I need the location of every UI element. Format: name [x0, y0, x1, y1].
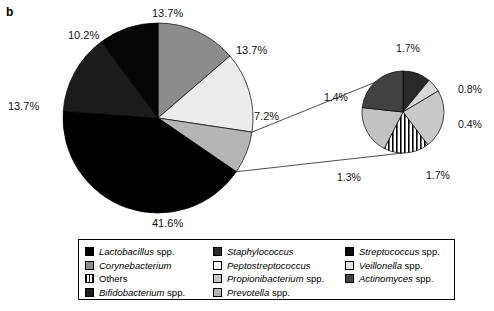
- legend-item-lactobacillus[interactable]: Lactobacillus spp.: [85, 245, 213, 259]
- legend-grid: Lactobacillus spp.StaphylococcusStreptoc…: [85, 245, 455, 299]
- legend-swatch-veillonella: [345, 261, 354, 270]
- legend-label-actinomyces: Actinomyces spp.: [359, 274, 433, 284]
- main-label-prevotella: 7.2%: [254, 111, 279, 122]
- legend-swatch-prevotella: [213, 288, 222, 297]
- legend-swatch-others: [85, 274, 94, 283]
- main-label-bifidobacterium: 13.7%: [8, 101, 39, 112]
- main-pie-slices: [63, 23, 253, 213]
- legend-label-lactobacillus: Lactobacillus spp.: [99, 247, 175, 257]
- legend-swatch-streptococcus: [345, 247, 354, 256]
- main-label-staphylococcus: 10.2%: [68, 30, 99, 41]
- legend-item-corynebacterium[interactable]: Corynebacterium: [85, 259, 213, 273]
- legend-swatch-propionibacterium: [213, 274, 222, 283]
- leader-line-bottom: [236, 153, 403, 172]
- legend-label-others: Others: [99, 274, 128, 284]
- sub-pie-slice-actinomyces-spp[interactable]: [362, 71, 403, 112]
- sub-label-streptococcus: 0.8%: [458, 84, 482, 95]
- legend-label-propionibacterium: Propionibacterium spp.: [227, 274, 324, 284]
- sub-label-propionibacterium: 1.7%: [426, 170, 450, 181]
- legend-label-corynebacterium: Corynebacterium: [99, 261, 171, 271]
- legend-item-bifidobacterium[interactable]: Bifidobacterium spp.: [85, 286, 213, 300]
- sub-label-prevotella-sub: 1.4%: [324, 92, 348, 103]
- chart-legend: Lactobacillus spp.StaphylococcusStreptoc…: [78, 239, 455, 300]
- legend-swatch-lactobacillus: [85, 247, 94, 256]
- legend-swatch-actinomyces: [345, 274, 354, 283]
- legend-item-propionibacterium[interactable]: Propionibacterium spp.: [213, 272, 345, 286]
- legend-label-veillonella: Veillonella spp.: [359, 261, 423, 271]
- legend-item-staphylococcus[interactable]: Staphylococcus: [213, 245, 345, 259]
- legend-item-actinomyces[interactable]: Actinomyces spp.: [345, 272, 455, 286]
- legend-swatch-corynebacterium: [85, 261, 94, 270]
- legend-swatch-staphylococcus: [213, 247, 222, 256]
- main-label-lactobacillus: 41.6%: [152, 218, 183, 229]
- legend-item-veillonella[interactable]: Veillonella spp.: [345, 259, 455, 273]
- figure-panel-b: b 13.7%10.2%13.7%13.7%7.2%41.6%1.7%0.8%0…: [0, 0, 494, 311]
- legend-swatch-bifidobacterium: [85, 288, 94, 297]
- main-label-peptostreptococcus: 13.7%: [236, 45, 267, 56]
- legend-cell-empty: [345, 286, 455, 300]
- sub-pie-slices: [362, 71, 444, 153]
- legend-label-prevotella: Prevotella spp.: [227, 288, 290, 298]
- legend-item-others[interactable]: Others: [85, 272, 213, 286]
- legend-label-peptostreptococcus: Peptostreptococcus: [227, 261, 310, 271]
- legend-item-streptococcus[interactable]: Streptococcus spp.: [345, 245, 455, 259]
- legend-label-streptococcus: Streptococcus spp.: [359, 247, 440, 257]
- legend-label-bifidobacterium: Bifidobacterium spp.: [99, 288, 185, 298]
- sub-label-actinomyces: 1.7%: [396, 43, 420, 54]
- sub-label-veillonella: 0.4%: [458, 119, 482, 130]
- legend-swatch-peptostreptococcus: [213, 261, 222, 270]
- legend-item-peptostreptococcus[interactable]: Peptostreptococcus: [213, 259, 345, 273]
- legend-item-prevotella[interactable]: Prevotella spp.: [213, 286, 345, 300]
- main-label-corynebacterium: 13.7%: [152, 8, 183, 19]
- sub-label-others: 1.3%: [337, 172, 361, 183]
- legend-label-staphylococcus: Staphylococcus: [227, 247, 294, 257]
